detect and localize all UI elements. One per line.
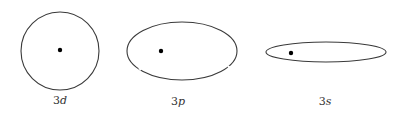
orbit-3p-break-right (228, 66, 230, 68)
orbit-3s-label: 3s (319, 95, 332, 108)
nucleus-dot-3s (289, 51, 293, 55)
orbit-3d: 3d (21, 12, 99, 107)
nucleus-dot-3d (58, 48, 62, 52)
orbit-diagram: 3d 3p 3s (0, 0, 403, 115)
orbit-3s-outline (266, 42, 386, 62)
orbit-3p-outline (127, 22, 237, 80)
orbit-3p: 3p (127, 22, 237, 108)
orbit-3s: 3s (266, 42, 386, 108)
nucleus-dot-3p (159, 49, 163, 53)
orbit-3p-break-left (139, 68, 141, 70)
orbit-3p-label: 3p (171, 95, 185, 108)
orbit-3d-label: 3d (53, 94, 67, 107)
